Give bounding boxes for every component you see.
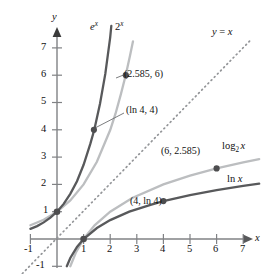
x-tick-label-5: 5 <box>187 244 192 255</box>
point-label-2585-6: (2.585, 6) <box>124 69 163 79</box>
curve-label-2-exponent: x <box>120 20 123 28</box>
curve-label-natural-log: lnx <box>227 174 242 185</box>
curve-label-e-exponent: x <box>95 20 98 28</box>
point-label-ln4-4: (ln 4, 4) <box>126 105 158 115</box>
curve-label-ln-word: ln <box>227 173 235 184</box>
point-label-6-2585: (6, 2.585) <box>161 146 200 156</box>
y-tick-label-4: 4 <box>41 124 46 135</box>
x-tick-label-3: 3 <box>134 244 139 255</box>
y-tick-label-5: 5 <box>41 96 46 107</box>
y-tick-label-neg1: -1 <box>36 260 45 271</box>
y-tick-label-6: 6 <box>41 69 46 80</box>
x-tick-label-6: 6 <box>213 244 218 255</box>
curve-label-e-to-the-x: ex <box>90 22 98 33</box>
curve-label-log-subscript-2: 2 <box>235 146 239 154</box>
y-tick-label-1: 1 <box>43 205 48 216</box>
y-tick-label-3: 3 <box>41 151 46 162</box>
point-label-4-ln4: (4, ln 4) <box>130 196 162 206</box>
curve-label-log-argument: x <box>241 140 246 151</box>
y-tick-label-7: 7 <box>41 42 46 53</box>
y-axis-label: y <box>52 12 57 23</box>
figure-exponential-logarithmic-graph: y x 7 6 5 4 3 2 1 -1 -1 1 2 3 4 5 6 7 ex… <box>0 0 267 274</box>
curve-label-2-to-the-x: 2x <box>115 22 123 33</box>
x-axis-label: x <box>255 233 260 244</box>
x-tick-label-1: 1 <box>81 244 86 255</box>
x-tick-label-2: 2 <box>107 244 112 255</box>
x-tick-label-neg1: -1 <box>24 244 33 255</box>
curve-label-ln-argument: x <box>238 173 243 184</box>
curve-label-y-equals-x: y = x <box>212 27 233 38</box>
y-tick-label-2: 2 <box>41 178 46 189</box>
x-tick-label-4: 4 <box>160 244 165 255</box>
x-tick-label-7: 7 <box>240 244 245 255</box>
curve-label-log-base-2: log2x <box>222 141 245 152</box>
curve-label-log-word: log <box>222 140 235 151</box>
